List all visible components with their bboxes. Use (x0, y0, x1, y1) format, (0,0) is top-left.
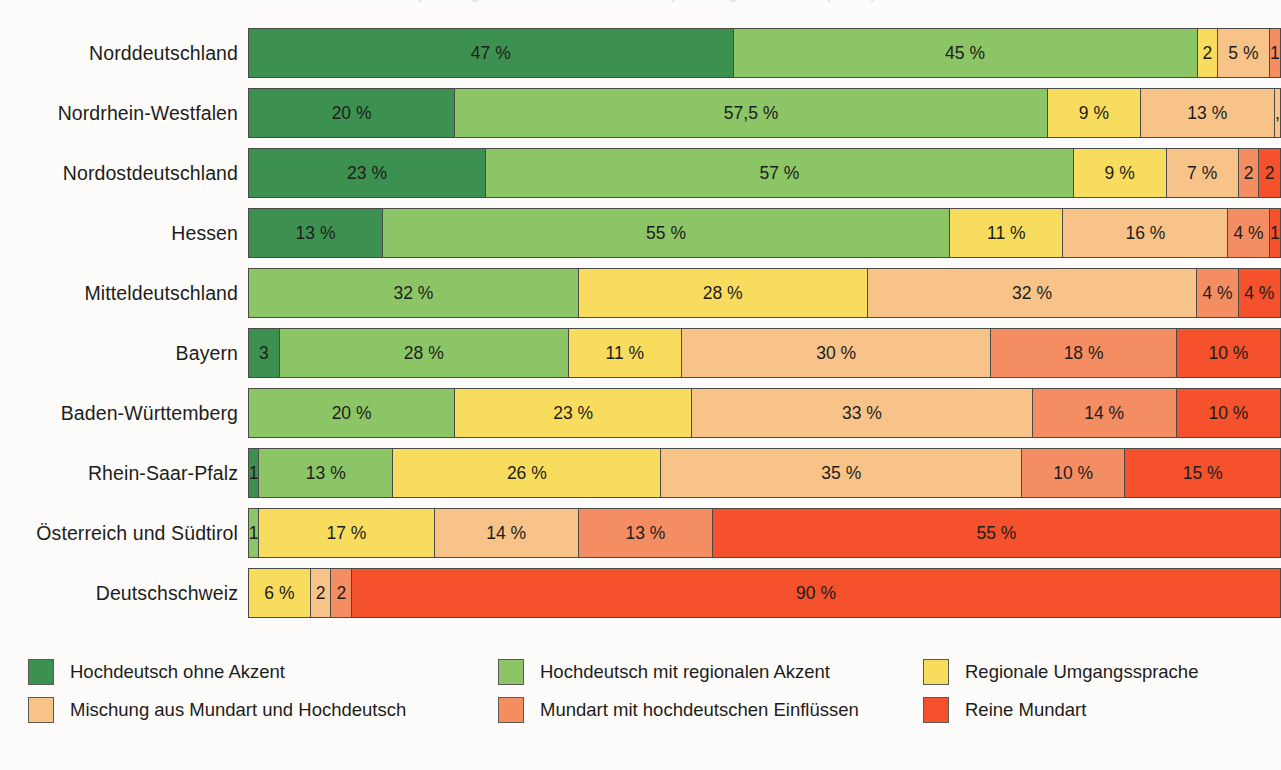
legend-swatch-hochdeutsch_mit_akzent (498, 659, 524, 685)
segment-value-label: 45 % (945, 43, 985, 64)
bar-segment-reine_mundart: 1 (1270, 209, 1280, 257)
stacked-bar: 13 %55 %11 %16 %4 %1 (248, 208, 1281, 258)
segment-value-label: 55 % (976, 523, 1016, 544)
row-label-bayern: Bayern (0, 328, 248, 378)
stacked-bar: 117 %14 %13 %55 % (248, 508, 1281, 558)
bar-segment-mundart_mit_einfluessen: 2 (1239, 149, 1260, 197)
stacked-bar-chart: Sprachgebrauch im deutschsprachigen Raum… (0, 0, 1281, 770)
bar-segment-regionale_umgangssprache: 9 % (1074, 149, 1167, 197)
stacked-bar: 23 %57 %9 %7 %22 (248, 148, 1281, 198)
legend-label: Mundart mit hochdeutschen Einflüssen (540, 699, 859, 721)
chart-row: Baden-Württemberg20 %23 %33 %14 %10 % (0, 388, 1281, 438)
bar-segment-hochdeutsch_mit_akzent: 1 (249, 509, 259, 557)
legend-swatch-reine_mundart (923, 697, 949, 723)
segment-value-label: 4 % (1233, 223, 1263, 244)
legend-item-mundart_mit_einfluessen[interactable]: Mundart mit hochdeutschen Einflüssen (498, 693, 923, 726)
legend-label: Hochdeutsch mit regionalen Akzent (540, 661, 830, 683)
bar-segment-reine_mundart: 10 % (1177, 329, 1280, 377)
bar-segment-regionale_umgangssprache: 11 % (569, 329, 682, 377)
bar-segment-mundart_mit_einfluessen: 18 % (991, 329, 1177, 377)
segment-value-label: 20 % (332, 403, 372, 424)
segment-value-label: 28 % (703, 283, 743, 304)
stacked-bar: 20 %57,5 %9 %13 %0,5 (248, 88, 1281, 138)
bar-segment-regionale_umgangssprache: 11 % (950, 209, 1063, 257)
bar-segment-mischung: 30 % (682, 329, 991, 377)
legend-item-regionale_umgangssprache[interactable]: Regionale Umgangssprache (923, 655, 1253, 688)
bar-segment-mundart_mit_einfluessen: 4 % (1197, 269, 1238, 317)
bar-segment-mundart_mit_einfluessen: 1 (1270, 29, 1280, 77)
segment-value-label: 15 % (1183, 463, 1223, 484)
bar-segment-mundart_mit_einfluessen: 10 % (1022, 449, 1125, 497)
segment-value-label: 9 % (1079, 103, 1109, 124)
segment-value-label: 11 % (987, 223, 1026, 244)
chart-row: Deutschschweiz6 %2290 % (0, 568, 1281, 618)
legend-swatch-hochdeutsch_ohne_akzent (28, 659, 54, 685)
bar-segment-hochdeutsch_mit_akzent: 45 % (734, 29, 1198, 77)
segment-value-label: 32 % (1012, 283, 1052, 304)
bar-segment-mischung: 33 % (692, 389, 1032, 437)
bar-segment-hochdeutsch_ohne_akzent: 47 % (249, 29, 734, 77)
segment-value-label: 57 % (760, 163, 800, 184)
chart-legend: Hochdeutsch ohne AkzentHochdeutsch mit r… (0, 655, 1281, 726)
segment-value-label: 10 % (1053, 463, 1093, 484)
chart-row: Norddeutschland47 %45 %25 %1 (0, 28, 1281, 78)
legend-label: Reine Mundart (965, 699, 1086, 721)
bar-segment-hochdeutsch_mit_akzent: 13 % (259, 449, 393, 497)
segment-value-label: 11 % (606, 343, 645, 364)
bar-segment-mundart_mit_einfluessen: 14 % (1033, 389, 1177, 437)
row-label-nordrhein-westfalen: Nordrhein-Westfalen (0, 88, 248, 138)
segment-value-label: 13 % (306, 463, 346, 484)
segment-value-label: 28 % (404, 343, 444, 364)
legend-label: Regionale Umgangssprache (965, 661, 1198, 683)
bar-segment-regionale_umgangssprache: 26 % (393, 449, 661, 497)
legend-swatch-mischung (28, 697, 54, 723)
stacked-bar: 32 %28 %32 %4 %4 % (248, 268, 1281, 318)
row-label-deutschschweiz: Deutschschweiz (0, 568, 248, 618)
segment-value-label: 14 % (486, 523, 526, 544)
bar-segment-hochdeutsch_ohne_akzent: 3 (249, 329, 280, 377)
bar-segment-hochdeutsch_ohne_akzent: 13 % (249, 209, 383, 257)
chart-row: Hessen13 %55 %11 %16 %4 %1 (0, 208, 1281, 258)
segment-value-label: 2 (336, 583, 346, 604)
segment-value-label: 7 % (1187, 163, 1217, 184)
segment-value-label: 17 % (326, 523, 366, 544)
bar-segment-mischung: 35 % (661, 449, 1022, 497)
bar-segment-hochdeutsch_ohne_akzent: 1 (249, 449, 259, 497)
bar-segment-mundart_mit_einfluessen: 13 % (579, 509, 713, 557)
segment-value-label: 13 % (1187, 103, 1227, 124)
legend-item-reine_mundart[interactable]: Reine Mundart (923, 693, 1253, 726)
segment-value-label: 9 % (1105, 163, 1135, 184)
segment-value-label: 23 % (553, 403, 593, 424)
segment-value-label: 2 (1265, 163, 1275, 184)
bar-segment-mundart_mit_einfluessen: 2 (331, 569, 352, 617)
bar-segment-regionale_umgangssprache: 6 % (249, 569, 311, 617)
chart-row: Nordrhein-Westfalen20 %57,5 %9 %13 %0,5 (0, 88, 1281, 138)
segment-value-label: 2 (316, 583, 326, 604)
bar-segment-mischung: 13 % (1141, 89, 1275, 137)
row-label-hessen: Hessen (0, 208, 248, 258)
bar-segment-mischung: 16 % (1063, 209, 1228, 257)
legend-item-hochdeutsch_mit_akzent[interactable]: Hochdeutsch mit regionalen Akzent (498, 655, 923, 688)
bar-segment-hochdeutsch_ohne_akzent: 20 % (249, 89, 455, 137)
legend-item-mischung[interactable]: Mischung aus Mundart und Hochdeutsch (28, 693, 498, 726)
stacked-bar: 20 %23 %33 %14 %10 % (248, 388, 1281, 438)
bar-segment-hochdeutsch_mit_akzent: 57 % (486, 149, 1074, 197)
segment-value-label: 6 % (264, 583, 294, 604)
legend-swatch-regionale_umgangssprache (923, 659, 949, 685)
segment-value-label: 3 (259, 343, 269, 364)
segment-value-label: 32 % (394, 283, 434, 304)
segment-value-label: 5 % (1228, 43, 1258, 64)
bar-segment-reine_mundart: 10 % (1177, 389, 1280, 437)
segment-value-label: 18 % (1064, 343, 1104, 364)
segment-value-label: 2 (1202, 43, 1212, 64)
segment-value-label: 13 % (625, 523, 665, 544)
row-label-sterreich-und-s-dtirol: Österreich und Südtirol (0, 508, 248, 558)
legend-swatch-mundart_mit_einfluessen (498, 697, 524, 723)
legend-item-hochdeutsch_ohne_akzent[interactable]: Hochdeutsch ohne Akzent (28, 655, 498, 688)
chart-row: Mitteldeutschland32 %28 %32 %4 %4 % (0, 268, 1281, 318)
segment-value-label: 10 % (1208, 343, 1248, 364)
row-label-rhein-saar-pfalz: Rhein-Saar-Pfalz (0, 448, 248, 498)
bar-segment-mischung: 14 % (435, 509, 579, 557)
segment-value-label: 1 (1270, 43, 1280, 64)
bar-segment-reine_mundart: 2 (1259, 149, 1280, 197)
